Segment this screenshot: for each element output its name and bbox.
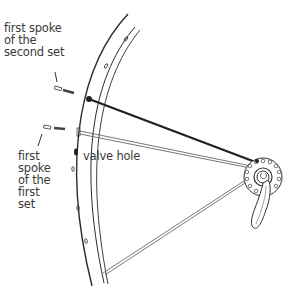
rim-holes — [72, 36, 129, 243]
label-first-spoke-second-set: first spoke of the second set — [4, 22, 64, 58]
label-first-spoke-first-set: first spoke of the first set — [18, 150, 51, 210]
leader-line-second-set — [55, 72, 57, 82]
loose-spoke-first-set — [43, 125, 65, 129]
leader-line-first-set — [38, 134, 42, 146]
valve-hole-marker — [74, 149, 78, 156]
thin-spoke-2 — [103, 181, 245, 275]
spoke-nipple — [86, 96, 92, 102]
loose-spoke-second-set — [54, 86, 74, 93]
label-valve-hole: valve hole — [83, 150, 140, 162]
